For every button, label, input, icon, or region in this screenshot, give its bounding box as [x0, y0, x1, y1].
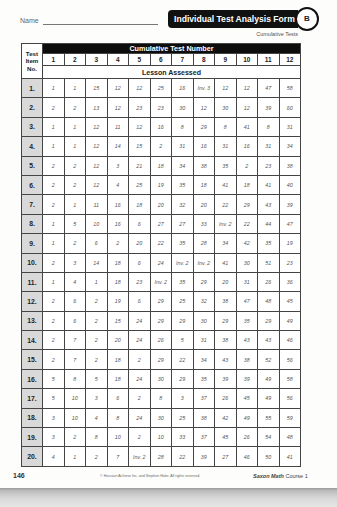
lesson-cell: 21 [129, 156, 151, 175]
test-number-4: 4 [107, 54, 129, 66]
lesson-cell: 52 [258, 350, 280, 369]
test-number-11: 11 [258, 54, 280, 66]
lesson-cell: 18 [107, 253, 129, 272]
lesson-cell: 43 [258, 195, 280, 214]
lesson-cell: 38 [279, 156, 301, 175]
lesson-cell: 3 [64, 253, 86, 272]
course-name: Course 1 [284, 473, 308, 479]
lesson-cell: 3 [86, 389, 108, 408]
lesson-cell: 10 [107, 428, 129, 447]
table-row: 4.111214152311631163134 [22, 137, 301, 156]
brand-name: Saxon Math [253, 473, 284, 479]
lesson-cell: 29 [258, 311, 280, 330]
lesson-cell: 12 [107, 98, 129, 117]
lesson-cell: 11 [86, 195, 108, 214]
lesson-cell: 59 [279, 408, 301, 427]
lesson-cell: 38 [193, 408, 215, 427]
lesson-cell: 23 [279, 253, 301, 272]
lesson-cell: 19 [107, 292, 129, 311]
table-row: 18.310482430253842495559 [22, 408, 301, 427]
lesson-cell: 15 [129, 137, 151, 156]
lesson-cell: 36 [279, 272, 301, 291]
table-row: 15.27218229223443385256 [22, 350, 301, 369]
lesson-cell: 2 [86, 447, 108, 466]
lesson-cell: 2 [64, 175, 86, 194]
lesson-cell: 18 [129, 195, 151, 214]
lesson-cell: 12 [86, 156, 108, 175]
lesson-cell: 42 [236, 234, 258, 253]
lesson-cell: 1 [43, 117, 65, 136]
test-number-8: 8 [193, 54, 215, 66]
lesson-cell: 43 [258, 331, 280, 350]
lesson-cell: 1 [43, 234, 65, 253]
copyright-notice: © Harcourt Achieve Inc. and Stephen Hake… [100, 474, 200, 478]
lesson-cell: 30 [150, 369, 172, 388]
lesson-cell: 29 [150, 311, 172, 330]
test-number-5: 5 [129, 54, 151, 66]
lesson-cell: 29 [150, 292, 172, 311]
lesson-cell: 30 [193, 311, 215, 330]
lesson-cell: 2 [43, 253, 65, 272]
cumulative-test-number-header: Cumulative Test Number [43, 44, 301, 54]
lesson-cell: 18 [107, 272, 129, 291]
lesson-cell: Inv. 2 [215, 214, 237, 233]
table-row: 13.262152429293029352949 [22, 311, 301, 330]
lesson-cell: 2 [43, 331, 65, 350]
lesson-cell: 7 [64, 331, 86, 350]
lesson-cell: 25 [172, 408, 194, 427]
lesson-cell: 32 [172, 195, 194, 214]
lesson-cell: 8 [150, 389, 172, 408]
table-row: 7.2111161820322022294339 [22, 195, 301, 214]
lesson-cell: 23 [129, 98, 151, 117]
lesson-cell: 16 [107, 214, 129, 233]
page-edge-shadow [0, 488, 337, 507]
lesson-cell: 35 [172, 234, 194, 253]
lesson-cell: 2 [43, 350, 65, 369]
lesson-cell: 39 [215, 369, 237, 388]
lesson-cell: 10 [86, 214, 108, 233]
lesson-assessed-row: Lesson Assessed [22, 66, 301, 79]
lesson-cell: 12 [215, 79, 237, 98]
lesson-cell: 1 [43, 272, 65, 291]
lesson-cell: 2 [150, 137, 172, 156]
lesson-cell: 1 [64, 117, 86, 136]
lesson-cell: 22 [215, 195, 237, 214]
table-row: 9.12622022352834423519 [22, 234, 301, 253]
lesson-cell: 11 [107, 117, 129, 136]
lesson-cell: 2 [64, 156, 86, 175]
lesson-cell: 22 [236, 214, 258, 233]
test-number-row: 123456789101112 [22, 54, 301, 66]
lesson-cell: 13 [86, 98, 108, 117]
lesson-cell: 38 [215, 292, 237, 311]
lesson-cell: 27 [150, 214, 172, 233]
lesson-cell: 26 [150, 331, 172, 350]
test-number-1: 1 [43, 54, 65, 66]
lesson-cell: 14 [86, 253, 108, 272]
lesson-assessed-header: Lesson Assessed [43, 66, 301, 79]
lesson-cell: 10 [64, 408, 86, 427]
item-number: 7. [22, 195, 43, 214]
lesson-cell: 27 [172, 214, 194, 233]
lesson-cell: 24 [129, 331, 151, 350]
item-header-line: Test [22, 50, 42, 58]
item-number: 18. [22, 408, 43, 427]
lesson-cell: 16 [150, 117, 172, 136]
item-number: 3. [22, 117, 43, 136]
item-number: 19. [22, 428, 43, 447]
lesson-cell: 37 [193, 389, 215, 408]
lesson-cell: 31 [172, 137, 194, 156]
lesson-cell: 42 [215, 408, 237, 427]
lesson-cell: 50 [258, 447, 280, 466]
lesson-cell: 19 [279, 234, 301, 253]
publisher-brand: Saxon Math Course 1 [253, 473, 308, 479]
lesson-cell: 6 [86, 234, 108, 253]
worksheet-page: Name Individual Test Analysis Form B Cum… [0, 0, 337, 488]
lesson-cell: 6 [64, 292, 86, 311]
lesson-cell: 2 [86, 350, 108, 369]
lesson-cell: 58 [279, 369, 301, 388]
lesson-cell: 2 [64, 98, 86, 117]
lesson-cell: 5 [86, 369, 108, 388]
test-number-12: 12 [279, 54, 301, 66]
lesson-cell: 29 [193, 272, 215, 291]
lesson-cell: 27 [215, 447, 237, 466]
